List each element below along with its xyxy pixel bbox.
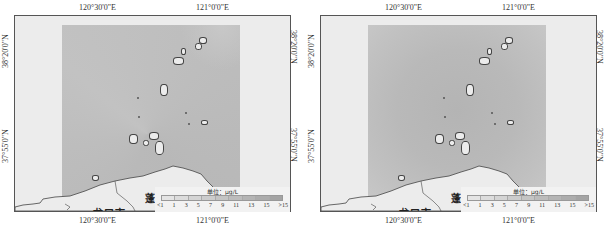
right-tick-label: 38°20'0"N [595,30,604,64]
legend-tick: 9 [221,202,224,208]
bottom-tick-label: 121°0'0"E [502,216,535,225]
right-tick-label: 38°20'0"N [289,30,298,64]
legend-color-bar [467,195,589,201]
legend: 单位：μg/L <1 1 3 5 7 9 11 13 15 >15 [155,187,290,212]
legend-tick: <1 [463,202,469,208]
island [181,48,186,55]
legend-tick: 5 [503,202,506,208]
islet [443,97,445,99]
islet [188,123,190,125]
islet [137,97,139,99]
legend-tick: 11 [539,202,545,208]
island [195,43,202,50]
legend-tick: 1 [479,202,482,208]
top-tick-label: 121°0'0"E [196,3,229,12]
island [201,120,208,125]
islet [491,112,493,114]
island [507,120,514,125]
bottom-tick-label: 121°0'0"E [196,216,229,225]
map-panel-right: 120°30'0"E 121°0'0"E 蓬莱区 龙口市 单位：μg/L [306,0,612,241]
top-tick-label: 120°30'0"E [79,3,116,12]
left-tick-label: 38°20'0"N [1,34,10,68]
legend-tick: 15 [569,202,575,208]
island [149,132,159,140]
legend-tick: 13 [248,202,254,208]
island [487,48,492,55]
legend-color-bar [161,195,283,201]
map-frame: 蓬莱区 龙口市 [320,15,597,212]
islet [138,116,140,118]
left-tick-label: 37°55'0"N [1,129,10,163]
legend-tick: 1 [173,202,176,208]
island [173,57,184,65]
islet [185,112,187,114]
legend-tick: 7 [515,202,518,208]
left-tick-label: 37°55'0"N [307,129,316,163]
island [160,84,168,96]
top-tick-label: 121°0'0"E [502,3,535,12]
top-tick-label: 120°30'0"E [385,3,422,12]
legend-tick: 3 [185,202,188,208]
legend-tick: <1 [157,202,163,208]
legend: 单位：μg/L <1 1 3 5 7 9 11 13 15 >15 [461,187,596,212]
legend-tick: 7 [209,202,212,208]
legend-tick: >15 [585,202,594,208]
island [501,43,508,50]
right-tick-label: 37°55'0"N [289,128,298,162]
place-label-longkou: 龙口市 [93,205,126,212]
map-panel-left: 120°30'0"E 121°0'0"E 蓬莱区 龙口市 单位：μg/L [0,0,306,241]
legend-tick: 3 [491,202,494,208]
place-label-longkou: 龙口市 [399,205,432,212]
island [455,132,465,140]
legend-tick: 5 [197,202,200,208]
islet [494,123,496,125]
legend-tick: 15 [263,202,269,208]
legend-tick: 11 [233,202,239,208]
island [479,57,490,65]
legend-ticks: <1 1 3 5 7 9 11 13 15 >15 [155,202,290,208]
island [466,84,474,96]
map-frame: 蓬莱区 龙口市 [14,15,291,212]
legend-tick: >15 [279,202,288,208]
legend-ticks: <1 1 3 5 7 9 11 13 15 >15 [461,202,596,208]
left-tick-label: 38°20'0"N [307,34,316,68]
legend-tick: 9 [527,202,530,208]
right-tick-label: 37°55'0"N [595,128,604,162]
bottom-tick-label: 120°30'0"E [79,216,116,225]
islet [444,116,446,118]
legend-tick: 13 [554,202,560,208]
bottom-tick-label: 120°30'0"E [385,216,422,225]
